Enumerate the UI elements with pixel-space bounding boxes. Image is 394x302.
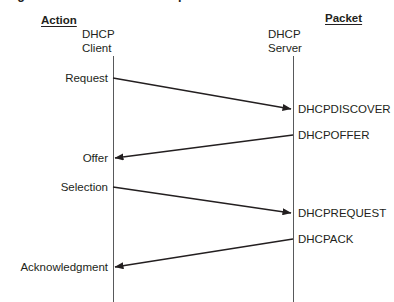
action-label: Selection: [61, 181, 108, 193]
message-arrow-server-to-client: [115, 239, 293, 267]
packet-label: DHCPACK: [298, 233, 353, 245]
packet-label: DHCPREQUEST: [298, 207, 386, 219]
message-arrow-client-to-server: [113, 187, 291, 213]
message-arrow-server-to-client: [115, 135, 293, 158]
action-label: Offer: [83, 152, 108, 164]
message-arrows: [0, 0, 394, 302]
message-arrow-client-to-server: [113, 78, 291, 109]
action-label: Acknowledgment: [20, 261, 108, 273]
packet-label: DHCPDISCOVER: [298, 103, 391, 115]
dhcp-lease-process-diagram: Figure 13-1 The DHCP lease process Actio…: [0, 0, 394, 302]
action-label: Request: [65, 72, 108, 84]
packet-label: DHCPOFFER: [298, 129, 370, 141]
